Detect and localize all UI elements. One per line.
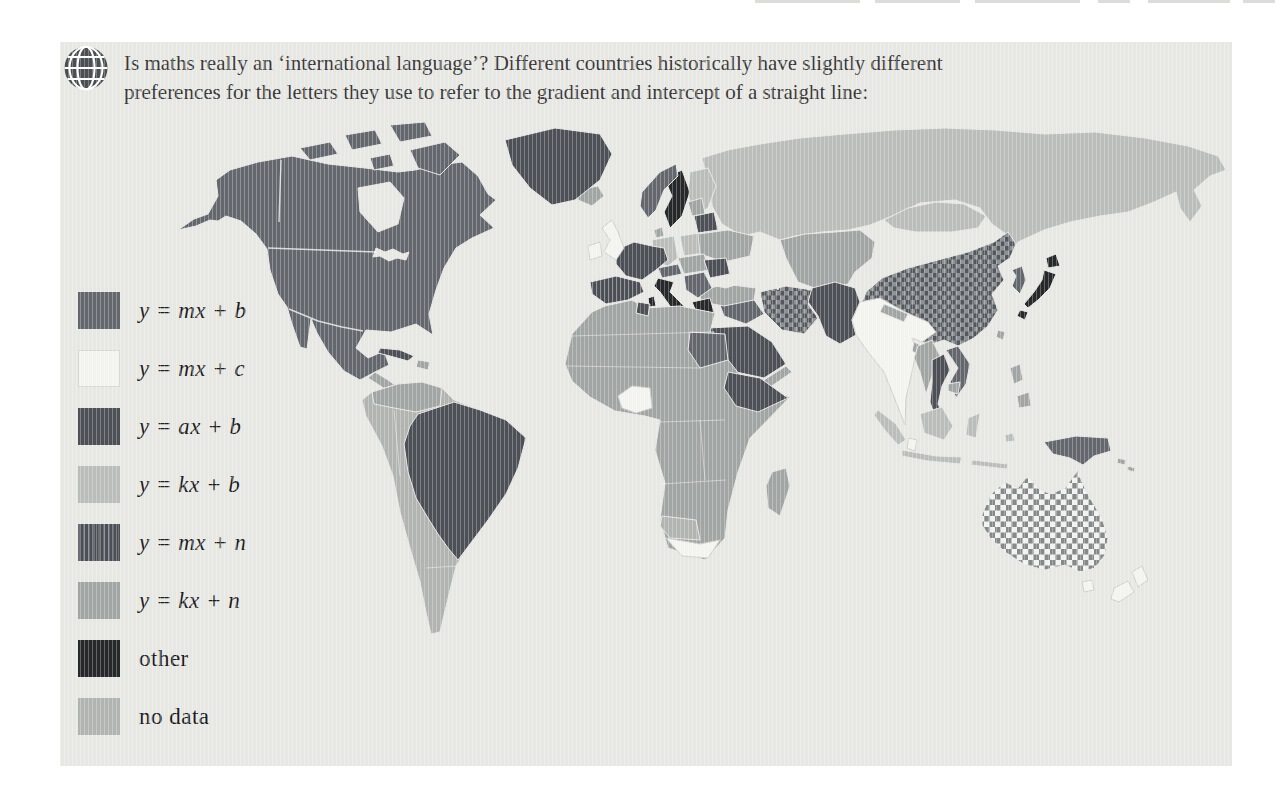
region-lesser-sunda xyxy=(971,433,1015,469)
figure-panel: Is maths really an ‘international langua… xyxy=(60,42,1232,766)
caption-line-2: preferences for the letters they use to … xyxy=(124,78,943,107)
region-denmark xyxy=(654,227,664,238)
region-romania xyxy=(704,258,730,278)
region-tunisia xyxy=(636,302,650,316)
region-kazakhstan xyxy=(780,230,875,290)
region-korea xyxy=(1012,266,1026,294)
region-iberia xyxy=(590,276,644,304)
region-new-guinea xyxy=(1044,436,1111,465)
region-taiwan xyxy=(996,330,1005,340)
globe-icon xyxy=(62,44,110,92)
region-caspian-sea xyxy=(767,250,786,290)
region-borneo xyxy=(920,407,953,440)
figure-caption: Is maths really an ‘international langua… xyxy=(124,49,943,107)
region-russia xyxy=(702,128,1226,256)
region-belarus xyxy=(694,212,718,233)
region-alpine xyxy=(658,264,682,278)
region-hispaniola xyxy=(416,360,430,370)
region-ukraine xyxy=(698,230,754,262)
region-sri-lanka xyxy=(907,438,917,451)
region-new-zealand xyxy=(1111,566,1148,602)
world-map xyxy=(60,120,1232,766)
page-edge-artifact xyxy=(0,0,1288,4)
caption-line-1: Is maths really an ‘international langua… xyxy=(124,49,943,78)
book-page: Is maths really an ‘international langua… xyxy=(0,0,1288,803)
region-ireland xyxy=(588,242,602,260)
region-philippines xyxy=(1010,364,1031,408)
region-java xyxy=(902,450,962,464)
region-cambodia xyxy=(948,382,960,394)
region-sulawesi xyxy=(966,413,980,438)
region-north-america xyxy=(178,156,496,380)
region-tasmania xyxy=(1082,580,1094,592)
region-madagascar xyxy=(766,468,790,516)
region-afghanistan-pakistan xyxy=(808,282,860,344)
region-solomon-islands xyxy=(1117,458,1135,472)
region-iran xyxy=(760,286,818,334)
region-australia xyxy=(982,470,1108,572)
